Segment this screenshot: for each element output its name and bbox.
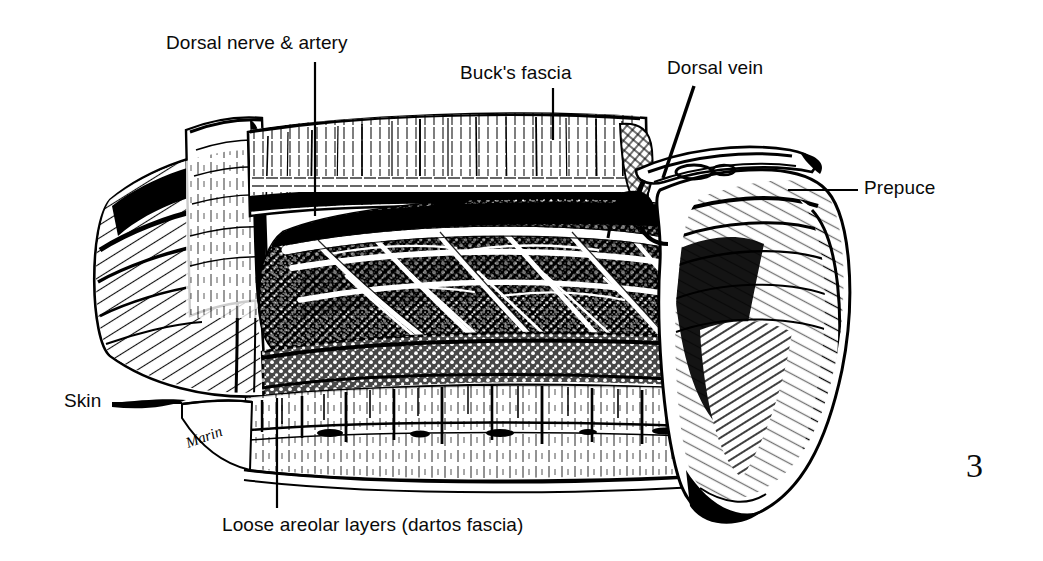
label-prepuce: Prepuce <box>864 178 935 197</box>
figure-number: 3 <box>966 449 983 483</box>
label-bucks-fascia: Buck's fascia <box>460 63 572 82</box>
prepuce <box>650 150 870 550</box>
label-loose-areolar-layers: Loose areolar layers (dartos fascia) <box>222 515 523 534</box>
skin-flap-lower-left: Marin <box>112 396 262 480</box>
label-skin: Skin <box>64 391 101 410</box>
figure-panel: Marin <box>0 0 1043 561</box>
label-dorsal-nerve-artery: Dorsal nerve & artery <box>166 33 348 52</box>
anatomical-illustration: Marin <box>0 0 1043 561</box>
label-dorsal-vein: Dorsal vein <box>667 58 763 77</box>
